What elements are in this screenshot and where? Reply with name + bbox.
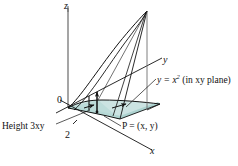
point-p-marker: [96, 111, 99, 114]
origin-label: 0: [57, 95, 62, 105]
x-axis-label: x: [150, 146, 154, 156]
y-axis-label: y: [163, 55, 167, 65]
figure-container: z y x 0 2 y = x2 (in xy plane) Height 3x…: [0, 0, 238, 166]
height-label-leader: [56, 110, 90, 124]
parabola-equation-label: y = x2 (in xy plane): [157, 74, 231, 86]
parabola-equation-main: y = x: [157, 75, 177, 85]
surface-second-ruling: [74, 11, 147, 110]
parabola-equation-suffix: (in xy plane): [180, 75, 231, 85]
z-axis-label: z: [64, 1, 68, 11]
x-axis-tick-label-2: 2: [65, 130, 70, 140]
point-p-label: P = (x, y): [122, 122, 158, 132]
height-annotation-label: Height 3xy: [2, 122, 44, 132]
x-axis-tick-2: [73, 120, 77, 124]
